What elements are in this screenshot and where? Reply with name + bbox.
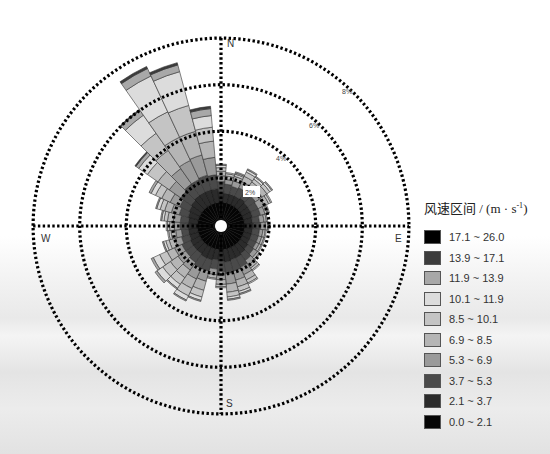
pct-label-4: 4% (276, 155, 286, 162)
legend-title-main: 风速区间 / (m · s (424, 201, 516, 216)
legend-swatch (424, 333, 441, 347)
legend-item: 10.1 ~ 11.9 (424, 289, 550, 310)
legend-item: 13.9 ~ 17.1 (424, 248, 550, 269)
wedge-segment (166, 221, 167, 231)
legend-item: 11.9 ~ 13.9 (424, 268, 550, 289)
legend-item: 0.0 ~ 2.1 (424, 412, 550, 433)
legend-swatch (424, 415, 441, 429)
legend-swatch (424, 312, 441, 326)
legend-label: 11.9 ~ 13.9 (449, 272, 504, 284)
compass-south-label: S (226, 398, 233, 409)
compass-east-label: E (395, 233, 402, 244)
legend-swatch (424, 271, 441, 285)
legend-item: 8.5 ~ 10.1 (424, 309, 550, 330)
legend: 风速区间 / (m · s-1) 17.1 ~ 26.013.9 ~ 17.11… (424, 198, 550, 432)
compass-west-label: W (41, 233, 51, 244)
legend-label: 6.9 ~ 8.5 (449, 334, 492, 346)
legend-label: 2.1 ~ 3.7 (449, 395, 492, 407)
legend-title-end: ) (523, 201, 527, 216)
legend-label: 5.3 ~ 6.9 (449, 354, 492, 366)
legend-label: 0.0 ~ 2.1 (449, 416, 492, 428)
legend-label: 13.9 ~ 17.1 (449, 252, 504, 264)
legend-swatch (424, 374, 441, 388)
legend-swatch (424, 394, 441, 408)
pct-label-2: 2% (245, 189, 255, 196)
legend-swatch (424, 251, 441, 265)
legend-item: 17.1 ~ 26.0 (424, 227, 550, 248)
legend-swatch (424, 353, 441, 367)
legend-items: 17.1 ~ 26.013.9 ~ 17.111.9 ~ 13.910.1 ~ … (424, 227, 550, 432)
pct-label-8: 8% (342, 88, 352, 95)
legend-label: 17.1 ~ 26.0 (449, 231, 504, 243)
compass-north-label: N (227, 38, 234, 49)
legend-swatch (424, 292, 441, 306)
legend-item: 3.7 ~ 5.3 (424, 371, 550, 392)
pct-label-6: 6% (309, 122, 319, 129)
center-hole (215, 220, 227, 232)
legend-label: 10.1 ~ 11.9 (449, 293, 504, 305)
legend-item: 5.3 ~ 6.9 (424, 350, 550, 371)
legend-item: 6.9 ~ 8.5 (424, 330, 550, 351)
legend-label: 3.7 ~ 5.3 (449, 375, 492, 387)
legend-label: 8.5 ~ 10.1 (449, 313, 498, 325)
legend-swatch (424, 230, 441, 244)
legend-title: 风速区间 / (m · s-1) (424, 198, 550, 217)
legend-item: 2.1 ~ 3.7 (424, 391, 550, 412)
